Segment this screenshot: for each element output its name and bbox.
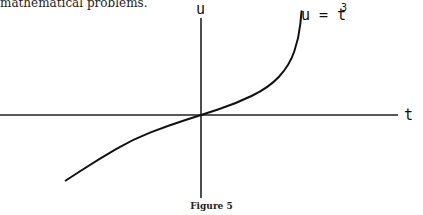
figure-caption: Figure 5 xyxy=(0,201,423,211)
function-label: u = t xyxy=(301,6,346,24)
function-label-exponent: 3 xyxy=(341,2,347,13)
curve-u-equals-t-cubed xyxy=(65,11,302,182)
u-axis-label: u xyxy=(196,0,205,18)
figure-plot: u t u = t 3 xyxy=(0,0,423,215)
t-axis-label: t xyxy=(404,106,413,124)
